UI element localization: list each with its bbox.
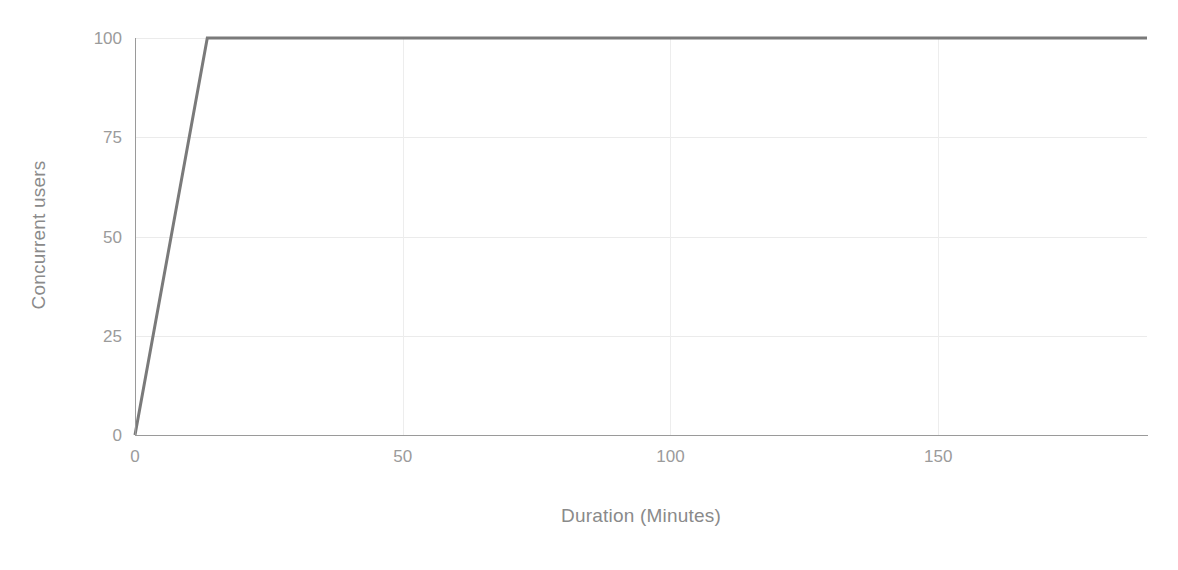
- x-axis-tick-labels: 050100150: [135, 448, 1147, 474]
- y-axis-title: Concurrent users: [22, 20, 56, 450]
- x-axis-tick-label: 100: [630, 448, 710, 465]
- x-axis-title: Duration (Minutes): [135, 505, 1147, 527]
- x-axis-tick-label: 0: [95, 448, 175, 465]
- y-axis-tick-label: 75: [62, 129, 122, 146]
- y-axis-tick-label: 100: [62, 30, 122, 47]
- y-axis-tick-label: 0: [62, 427, 122, 444]
- y-axis-tick-labels: 0255075100: [58, 38, 122, 435]
- series-line: [135, 38, 1147, 435]
- y-axis-tick-label: 25: [62, 327, 122, 344]
- x-axis-tick-label: 50: [363, 448, 443, 465]
- y-axis-line: [135, 38, 136, 436]
- plot-area: [135, 38, 1147, 435]
- x-axis-line: [135, 435, 1148, 436]
- y-axis-tick-label: 50: [62, 228, 122, 245]
- line-chart: Concurrent users 0255075100 050100150 Du…: [0, 0, 1178, 570]
- series-line-concurrent-users: [135, 38, 1147, 435]
- x-axis-tick-label: 150: [898, 448, 978, 465]
